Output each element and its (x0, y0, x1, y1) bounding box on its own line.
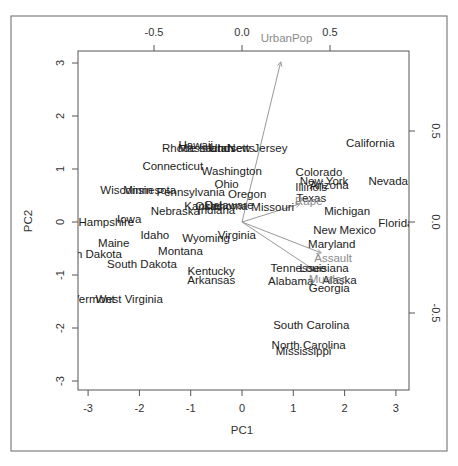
y-tick-label: -3 (54, 376, 66, 386)
state-label: California (346, 137, 395, 149)
right-tick-label: 0.5 (430, 123, 442, 138)
right-tick-label: -0.5 (430, 304, 442, 323)
x-tick-label: -2 (135, 402, 145, 414)
state-label: Missouri (251, 201, 294, 213)
state-label: Arkansas (187, 274, 235, 286)
state-label: Nebraska (151, 205, 201, 217)
state-label: Iowa (117, 213, 142, 225)
top-tick-label: 0.5 (322, 26, 337, 38)
state-label: Idaho (140, 229, 169, 241)
y-axis-label: PC2 (22, 210, 34, 232)
state-label: Minnesota (123, 184, 177, 196)
y-tick-label: -1 (54, 270, 66, 280)
y-tick-label: -2 (54, 323, 66, 333)
right-tick-label: 0.0 (430, 214, 442, 229)
observation-labels: HawaiiRhode IslandMassachusettsUtahNew J… (52, 137, 414, 358)
state-label: South Dakota (107, 258, 177, 270)
top-tick-label: -0.5 (145, 26, 164, 38)
y-tick-label: 2 (54, 113, 66, 119)
x-axis-label: PC1 (231, 424, 253, 436)
y-tick-label: 0 (54, 219, 66, 225)
state-label: Nevada (368, 175, 408, 187)
x-tick-label: 2 (342, 402, 348, 414)
y-tick-label: 3 (54, 60, 66, 66)
state-label: Virginia (218, 229, 257, 241)
pca-biplot: -3-2-10123 3210-1-2-3 -0.50.00.5 0.50.0-… (0, 0, 458, 466)
state-label: New Jersey (227, 142, 287, 154)
state-label: Indiana (197, 204, 235, 216)
x-tick-label: 3 (393, 402, 399, 414)
x-tick-label: 1 (290, 402, 296, 414)
state-label: Mississippi (276, 345, 332, 357)
variable-label: Rape (295, 195, 323, 207)
state-label: Montana (158, 245, 203, 257)
y-axis-left: 3210-1-2-3 (54, 60, 78, 386)
state-label: West Virginia (95, 293, 163, 305)
state-label: Alabama (268, 275, 314, 287)
state-label: Florida (378, 217, 414, 229)
variable-label: Assault (314, 252, 353, 264)
x-tick-label: -3 (83, 402, 93, 414)
x-axis-bottom: -3-2-10123 (83, 390, 399, 414)
state-label: Washington (202, 165, 262, 177)
state-label: South Carolina (273, 319, 350, 331)
state-label: Maryland (308, 238, 355, 250)
variable-label: UrbanPop (261, 32, 313, 44)
variable-label: Murder (309, 273, 346, 285)
top-tick-label: 0.0 (234, 26, 249, 38)
x-tick-label: -1 (186, 402, 196, 414)
state-label: Connecticut (142, 160, 204, 172)
x-tick-label: 0 (239, 402, 245, 414)
y-tick-label: 1 (54, 166, 66, 172)
state-label: Michigan (324, 205, 370, 217)
y-axis-right: 0.50.0-0.5 (409, 123, 442, 322)
state-label: New Mexico (313, 224, 376, 236)
